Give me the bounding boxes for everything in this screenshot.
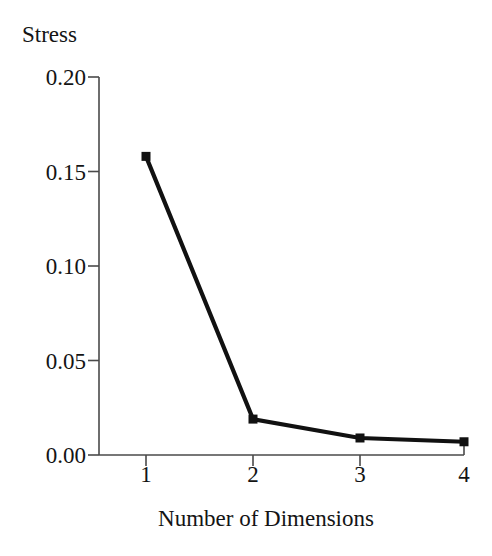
data-point-marker-3: [356, 433, 365, 442]
data-point-marker-1: [142, 152, 151, 161]
x-tick-label-1: 2: [233, 463, 273, 486]
x-axis-title: Number of Dimensions: [0, 505, 492, 533]
x-tick-label-3: 4: [444, 463, 484, 486]
scree-plot-chart: Stress 0.000.050.100.150.20 1234 Number …: [0, 0, 492, 556]
series-line-stress: [146, 156, 464, 441]
x-tick-label-0: 1: [126, 463, 166, 486]
data-point-marker-2: [249, 415, 258, 424]
data-point-markers: [142, 152, 469, 446]
data-point-marker-4: [460, 437, 469, 446]
x-tick-label-2: 3: [340, 463, 380, 486]
data-series-line: [146, 156, 464, 441]
axis-ticks: [88, 77, 464, 466]
axis-lines: [99, 77, 464, 455]
